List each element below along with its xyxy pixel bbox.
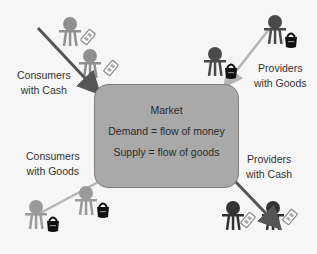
provider-with-cash-figure [262,201,284,230]
consumers-with-goods-label: Consumers with Goods [26,149,80,179]
provider-with-goods-figure [204,47,226,76]
cash-icon [282,209,297,225]
consumer-with-cash-figure [59,17,81,46]
supply-definition: Supply = flow of goods [95,146,238,158]
providers-with-cash-label: Providers with Cash [246,152,292,182]
goods-bag-icon [97,204,109,219]
goods-bag-icon [225,65,237,80]
consumer-with-goods-figure [25,200,47,229]
market-box: Market Demand = flow of money Supply = f… [94,84,239,188]
cash-icon [103,60,118,76]
provider-with-cash-figure [222,201,244,230]
goods-bag-icon [285,34,297,49]
goods-bag-icon [47,218,59,233]
provider-with-goods-figure [264,15,286,44]
consumers-with-cash-label: Consumers with Cash [17,68,71,98]
demand-definition: Demand = flow of money [95,125,238,137]
market-title: Market [95,104,238,116]
providers-with-goods-label: Providers with Goods [254,61,307,91]
cash-icon [80,29,95,45]
consumer-with-goods-figure [75,186,97,215]
diagram-canvas: Market Demand = flow of money Supply = f… [0,0,317,254]
